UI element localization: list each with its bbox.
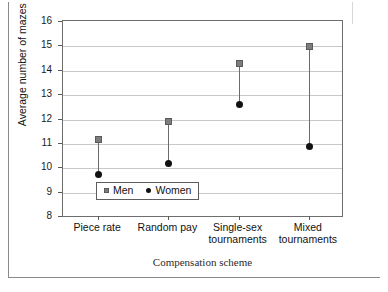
- figure-frame-bottom-rule: [8, 277, 380, 278]
- x-axis-title: Compensation scheme: [62, 256, 343, 268]
- y-axis-tick-mark: [58, 94, 62, 95]
- y-axis-tick-label: 16: [32, 16, 52, 26]
- y-axis-tick-mark: [58, 216, 62, 217]
- connector-line: [98, 139, 99, 174]
- data-point-men: [236, 60, 243, 67]
- gridline: [63, 71, 342, 72]
- data-point-women: [236, 101, 243, 108]
- y-axis-tick-mark: [58, 70, 62, 71]
- legend-item-women: Women: [146, 185, 191, 196]
- y-axis-tick-label: 10: [32, 162, 52, 172]
- data-point-men: [306, 43, 313, 50]
- y-axis-tick-mark: [58, 21, 62, 22]
- gridline: [63, 144, 342, 145]
- x-axis-tick-mark: [98, 216, 99, 220]
- y-axis-tick-mark: [58, 192, 62, 193]
- chart-legend: Men Women: [96, 182, 199, 200]
- data-point-women: [306, 143, 313, 150]
- gridline: [63, 95, 342, 96]
- data-point-men: [165, 118, 172, 125]
- data-point-group: [239, 21, 240, 216]
- data-point-women: [95, 171, 102, 178]
- connector-line: [168, 122, 169, 163]
- connector-line: [239, 63, 240, 104]
- y-axis-tick-mark: [58, 167, 62, 168]
- y-axis-title: Average number of mazes solved: [16, 0, 28, 143]
- x-axis-tick-mark: [239, 216, 240, 220]
- y-axis-tick-label: 12: [32, 114, 52, 124]
- x-axis-tick-mark: [309, 216, 310, 220]
- y-axis-tick-mark: [58, 143, 62, 144]
- x-axis-tick-label-line: tournaments: [264, 234, 352, 246]
- figure-frame-right-rule: [352, 2, 353, 24]
- y-axis-tick-label: 15: [32, 40, 52, 50]
- y-axis-tick-label: 13: [32, 89, 52, 99]
- y-axis-tick-label: 9: [32, 187, 52, 197]
- legend-label-men: Men: [113, 185, 133, 196]
- connector-line: [309, 46, 310, 146]
- x-axis-tick-label: Mixedtournaments: [264, 222, 352, 245]
- data-point-women: [165, 160, 172, 167]
- figure-frame-left-rule: [8, 2, 9, 277]
- figure-container: 8910111213141516 Average number of mazes…: [0, 0, 388, 292]
- x-axis-tick-label-group: Piece rateRandom paySingle-sextournament…: [62, 222, 343, 254]
- y-axis-tick-mark: [58, 119, 62, 120]
- legend-item-men: Men: [104, 185, 133, 196]
- y-axis-tick-mark: [58, 45, 62, 46]
- legend-dot-marker-icon: [146, 188, 151, 193]
- y-axis-tick-label: 8: [32, 211, 52, 221]
- gridline: [63, 46, 342, 47]
- legend-square-marker-icon: [104, 188, 109, 193]
- x-axis-tick-label-line: Mixed: [264, 222, 352, 234]
- x-axis-tick-mark: [168, 216, 169, 220]
- data-point-group: [309, 21, 310, 216]
- y-axis-tick-label: 11: [32, 138, 52, 148]
- gridline: [63, 120, 342, 121]
- y-axis-tick-label: 14: [32, 65, 52, 75]
- legend-label-women: Women: [155, 185, 191, 196]
- data-point-men: [95, 136, 102, 143]
- gridline: [63, 168, 342, 169]
